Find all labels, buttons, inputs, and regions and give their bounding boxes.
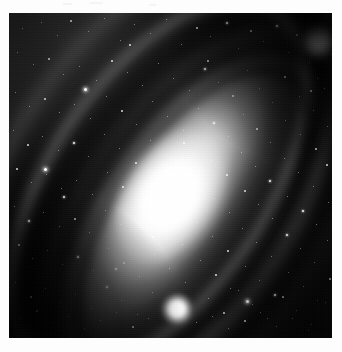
paper-speck (63, 3, 72, 5)
paper-speck (90, 2, 103, 4)
plate-caption (9, 340, 332, 350)
astronomical-image-plate[interactable] (9, 13, 332, 338)
bright-foreground-star (157, 289, 197, 329)
paper-speck (149, 4, 156, 6)
page-canvas (0, 0, 342, 352)
